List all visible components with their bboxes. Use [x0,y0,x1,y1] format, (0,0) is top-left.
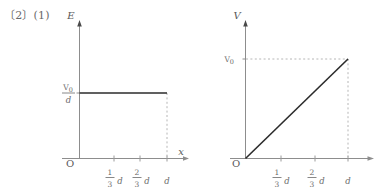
x-tick-two-thirds-denominator: 3 [135,180,140,189]
origin-label: O [232,158,240,169]
series-line-V [246,59,349,159]
x-axis-arrow-icon [183,156,189,160]
origin-label: O [66,158,74,169]
y-axis-label-V: V [233,10,242,21]
y-tick-denominator-d: d [66,95,72,105]
x-axis-label-x: x [178,146,184,157]
x-tick-two-thirds-denominator: 3 [310,180,315,189]
x-tick-one-third-unit: d [117,176,123,186]
figure-page: 〔2〕(1) E x O V0 d [0,0,380,196]
y-axis-arrow-icon [77,20,82,27]
y-axis-arrow-icon [243,20,248,27]
x-tick-d-label: d [164,176,170,186]
chart-potential-svg: V O V0 1 3 d 2 3 d d [190,0,380,196]
chart-potential: V O V0 1 3 d 2 3 d d [190,0,380,196]
x-tick-one-third-numerator: 1 [108,168,113,177]
x-tick-two-thirds-numerator: 2 [135,168,140,177]
chart-electric-field-svg: E x O V0 d 1 3 d 2 3 d [0,0,190,196]
y-tick-label-V0: V0 [223,55,234,66]
x-tick-one-third-denominator: 3 [275,180,280,189]
x-tick-one-third-denominator: 3 [108,180,113,189]
y-tick-numerator-V: V0 [62,83,73,94]
x-axis-arrow-icon [368,156,375,161]
x-tick-two-thirds-unit: d [319,176,325,186]
chart-electric-field: E x O V0 d 1 3 d 2 3 d [0,0,190,196]
x-tick-two-thirds-numerator: 2 [310,168,315,177]
y-tick-V-subscript: 0 [230,58,234,66]
x-tick-one-third-unit: d [284,176,290,186]
x-tick-two-thirds-unit: d [144,176,150,186]
x-tick-one-third-numerator: 1 [275,168,280,177]
x-tick-d-label: d [345,176,351,186]
y-axis-label-E: E [66,10,75,21]
